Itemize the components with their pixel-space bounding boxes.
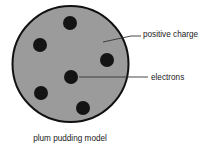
electron-lower-left <box>34 86 48 100</box>
electron-upper-left <box>33 38 47 52</box>
electron-bottom <box>76 101 90 115</box>
label-positive-charge: positive charge <box>143 30 199 39</box>
electron-center <box>64 70 78 84</box>
diagram-caption: plum pudding model <box>33 134 107 143</box>
electron-top <box>63 16 77 30</box>
electron-right <box>100 53 114 67</box>
label-electrons: electrons <box>151 73 184 82</box>
plum-pudding-diagram-page: positive charge electrons plum pudding m… <box>0 0 218 149</box>
atom-diagram: positive charge electrons plum pudding m… <box>0 0 218 149</box>
